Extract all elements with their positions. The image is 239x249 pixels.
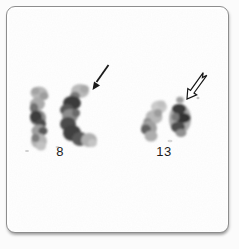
karyotype-image — [0, 0, 239, 249]
chromosome-8-label: 8 — [52, 145, 68, 158]
karyotype-figure: 8 13 — [0, 0, 239, 249]
chromosome-13-label: 13 — [155, 145, 173, 158]
chromosome-8-left — [30, 87, 49, 151]
